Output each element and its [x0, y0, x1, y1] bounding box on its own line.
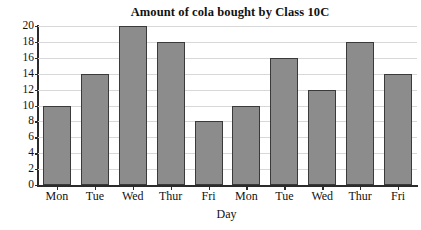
x-tick-label: Wed	[114, 188, 152, 204]
x-tick-mark	[57, 186, 58, 190]
x-tick-mark	[133, 186, 134, 190]
y-tick-label: 14	[0, 68, 34, 80]
bar	[195, 121, 223, 185]
x-tick-mark	[360, 186, 361, 190]
plot-area	[38, 26, 417, 185]
x-tick-mark	[209, 186, 210, 190]
x-axis-tick-labels: MonTueWedThurFriMonTueWedThurFri	[38, 188, 417, 206]
y-tick-label: 4	[0, 147, 34, 159]
x-tick-label: Fri	[379, 188, 417, 204]
bar	[43, 106, 71, 186]
bar	[232, 106, 260, 186]
bar	[81, 74, 109, 185]
y-tick-label: 6	[0, 131, 34, 143]
chart-title: Amount of cola bought by Class 10C	[60, 5, 400, 20]
x-axis-label: Day	[36, 207, 417, 222]
x-tick-label: Thur	[152, 188, 190, 204]
bar	[270, 58, 298, 185]
y-tick-label: 2	[0, 163, 34, 175]
x-tick-label: Mon	[38, 188, 76, 204]
x-tick-mark	[246, 186, 247, 190]
x-tick-mark	[398, 186, 399, 190]
bar-chart-figure: Amount of cola bought by Class 10C Numbe…	[0, 0, 421, 230]
x-tick-label: Thur	[341, 188, 379, 204]
x-tick-mark	[322, 186, 323, 190]
bar	[157, 42, 185, 185]
x-tick-mark	[284, 186, 285, 190]
x-tick-mark	[95, 186, 96, 190]
y-tick-label: 0	[0, 179, 34, 191]
bar	[119, 26, 147, 185]
bar-series	[38, 26, 417, 185]
y-tick-label: 12	[0, 84, 34, 96]
x-tick-label: Tue	[265, 188, 303, 204]
x-tick-label: Wed	[303, 188, 341, 204]
x-tick-mark	[171, 186, 172, 190]
y-tick-label: 8	[0, 115, 34, 127]
bar	[384, 74, 412, 185]
bar	[308, 90, 336, 185]
y-tick-label: 10	[0, 100, 34, 112]
y-tick-label: 20	[0, 20, 34, 32]
x-tick-label: Tue	[76, 188, 114, 204]
y-tick-label: 18	[0, 36, 34, 48]
y-tick-label: 16	[0, 52, 34, 64]
x-tick-label: Fri	[190, 188, 228, 204]
x-tick-label: Mon	[228, 188, 266, 204]
y-axis-tick-labels: 02468101214161820	[0, 0, 34, 230]
bar	[346, 42, 374, 185]
